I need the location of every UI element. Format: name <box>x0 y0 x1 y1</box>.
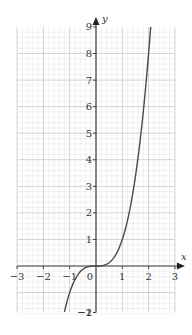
y-tick-label: 6 <box>86 101 92 112</box>
y-tick-label: 7 <box>86 75 92 86</box>
x-tick-label: −2 <box>36 271 51 282</box>
y-tick-label: 5 <box>86 128 92 139</box>
y-tick-label: 8 <box>86 48 92 59</box>
y-tick-label: 2 <box>86 207 92 218</box>
y-tick-label: 4 <box>86 154 92 165</box>
x-tick-label: 1 <box>119 271 125 282</box>
x-tick-label: 2 <box>145 271 151 282</box>
y-axis-arrow-icon <box>93 17 100 25</box>
x-tick-label: 3 <box>172 271 178 282</box>
x-axis-arrow-icon <box>177 263 185 270</box>
x-axis-label: x <box>181 251 187 262</box>
curve-series <box>64 27 150 312</box>
axes <box>17 17 185 313</box>
y-tick-label: 3 <box>86 181 92 192</box>
y-axis-label: y <box>101 13 108 24</box>
y-tick-label: −1 <box>77 307 92 318</box>
x-tick-label: 0 <box>87 271 93 282</box>
chart: −3−2−10123−2−1123456789 x y <box>0 0 192 335</box>
y-tick-label: 9 <box>86 21 92 32</box>
tick-labels: −3−2−10123−2−1123456789 <box>10 21 178 318</box>
y-tick-label: 1 <box>86 234 92 245</box>
x-tick-label: −3 <box>10 271 25 282</box>
